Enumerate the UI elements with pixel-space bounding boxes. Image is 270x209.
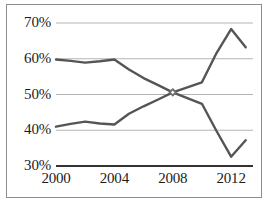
line-chart-figure: 30%40%50%60%70% 2000200420082012 [0, 0, 270, 209]
x-tick-label-2012: 2012 [208, 170, 254, 187]
gridlines-group [56, 23, 253, 130]
y-tick-label-40: 40% [7, 121, 51, 138]
series-line-rising-series [56, 29, 246, 127]
x-tick-label-2004: 2004 [91, 170, 137, 187]
data-markers-group [170, 89, 176, 95]
x-tick-label-2008: 2008 [150, 170, 196, 187]
crossover-marker [170, 89, 176, 95]
y-tick-label-60: 60% [7, 50, 51, 67]
y-tick-label-70: 70% [7, 14, 51, 31]
x-tick-label-2000: 2000 [33, 170, 79, 187]
series-lines-group [56, 29, 246, 157]
series-line-declining-series [56, 59, 246, 156]
y-tick-label-50: 50% [7, 86, 51, 103]
